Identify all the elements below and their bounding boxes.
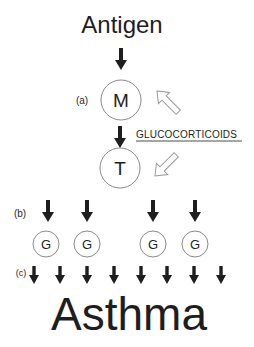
down-arrow-icon — [147, 200, 159, 222]
node-t-label: T — [114, 158, 126, 179]
diagram-canvas: Antigen (a) M GLUCOCORTICOIDS T (b) G G — [0, 0, 254, 347]
down-arrow-icon — [189, 200, 201, 222]
label-b: (b) — [14, 208, 26, 219]
hollow-arrow-up-left-icon — [151, 85, 184, 118]
down-arrow-icon — [136, 266, 146, 284]
hollow-arrow-down-left-icon — [149, 149, 182, 182]
node-g-label: G — [82, 237, 92, 252]
down-arrow-icon — [82, 266, 92, 284]
node-g-4: G — [182, 231, 208, 257]
down-arrow-icon — [29, 266, 39, 284]
down-arrow-icon — [42, 200, 54, 222]
node-g-label: G — [190, 237, 200, 252]
glucocorticoids-label: GLUCOCORTICOIDS — [136, 129, 237, 140]
node-g-label: G — [41, 237, 51, 252]
down-arrow-icon — [55, 266, 65, 284]
label-c: (c) — [16, 268, 27, 278]
down-arrow-icon — [189, 266, 199, 284]
label-a: (a) — [76, 95, 88, 106]
node-t: T — [100, 148, 140, 188]
down-arrow-icon — [81, 200, 93, 222]
asthma-label: Asthma — [51, 288, 207, 340]
down-arrow-icon — [109, 266, 119, 284]
down-arrow-icon — [162, 266, 172, 284]
down-arrow-icon — [216, 266, 226, 284]
down-arrow-icon — [114, 126, 126, 148]
antigen-label: Antigen — [81, 11, 162, 38]
node-g-1: G — [33, 231, 59, 257]
node-g-3: G — [140, 231, 166, 257]
node-g-2: G — [74, 231, 100, 257]
node-m-label: M — [113, 90, 129, 111]
node-g-label: G — [148, 237, 158, 252]
down-arrow-icon — [115, 48, 127, 70]
node-m: M — [101, 80, 141, 120]
